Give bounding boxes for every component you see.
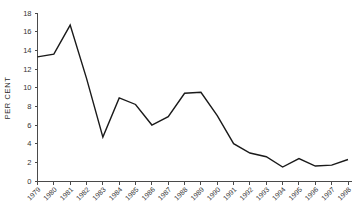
x-tick-label: 1979: [26, 186, 42, 202]
y-tick-label: 0: [27, 177, 31, 186]
x-tick-label: 1982: [75, 186, 91, 202]
x-tick-label: 1991: [222, 186, 238, 202]
y-tick-label: 14: [23, 46, 31, 55]
chart-container: PER CENT 024681012141618 197919801981198…: [0, 0, 359, 222]
y-tick-label: 2: [27, 158, 31, 167]
x-tick-label: 1989: [189, 186, 205, 202]
x-tick-label: 1984: [107, 186, 123, 202]
x-tick-label: 1992: [238, 186, 254, 202]
x-tick-label: 1983: [91, 186, 107, 202]
x-tick-label: 1985: [124, 186, 140, 202]
y-tick-label: 8: [27, 102, 31, 111]
y-axis-title-text: PER CENT: [3, 77, 12, 120]
y-tick-label: 16: [23, 27, 31, 36]
y-tick-label: 6: [27, 121, 31, 130]
y-axis-ticks: 024681012141618: [23, 9, 37, 186]
x-axis-tick-labels: 1979198019811982198319841985198619871988…: [26, 186, 353, 202]
x-tick-label: 1993: [255, 186, 271, 202]
x-tick-label: 1996: [304, 186, 320, 202]
x-tick-label: 1994: [271, 186, 287, 202]
x-tick-label: 1980: [42, 186, 58, 202]
data-series-line: [38, 25, 349, 167]
x-tick-label: 1997: [320, 186, 336, 202]
x-tick-label: 1995: [287, 186, 303, 202]
y-tick-label: 10: [23, 83, 31, 92]
x-tick-label: 1998: [336, 186, 352, 202]
axes: [38, 13, 353, 182]
x-tick-label: 1981: [58, 186, 74, 202]
line-chart: PER CENT 024681012141618 197919801981198…: [0, 0, 359, 222]
x-tick-label: 1987: [156, 186, 172, 202]
y-tick-label: 12: [23, 65, 31, 74]
x-tick-label: 1986: [140, 186, 156, 202]
x-tick-label: 1990: [206, 186, 222, 202]
y-tick-label: 18: [23, 9, 31, 18]
y-axis-title: PER CENT: [3, 77, 12, 120]
x-tick-label: 1988: [173, 186, 189, 202]
y-tick-label: 4: [27, 139, 31, 148]
